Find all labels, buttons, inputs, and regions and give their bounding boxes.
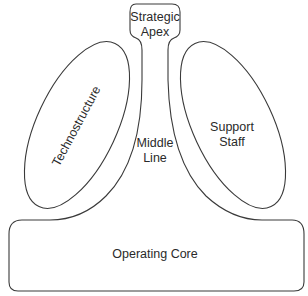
technostructure-label: Technostructure xyxy=(49,84,103,169)
strategic-apex-label-line1: Strategic xyxy=(130,10,179,24)
operating-core-label: Operating Core xyxy=(112,247,198,261)
middle-line-label-line1: Middle xyxy=(137,136,174,150)
strategic-apex-label-line2: Apex xyxy=(141,25,170,39)
support-staff-label-line2: Staff xyxy=(219,135,245,149)
support-staff-label-line1: Support xyxy=(210,120,254,134)
middle-line-label-line2: Line xyxy=(143,151,167,165)
org-structure-diagram: Strategic Apex Technostructure Support S… xyxy=(0,0,308,296)
